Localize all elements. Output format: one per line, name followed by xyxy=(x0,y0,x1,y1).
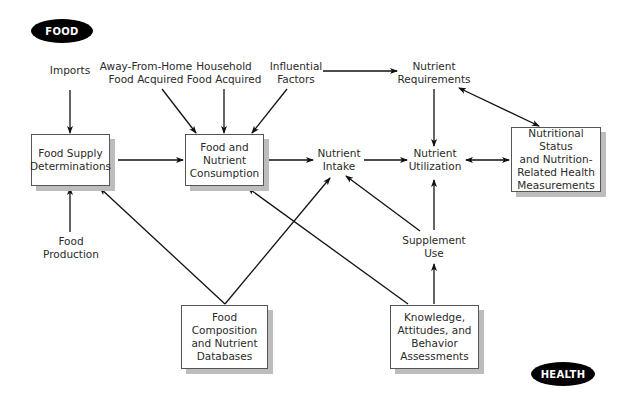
box-label: Food and Nutrient Consumption xyxy=(190,141,260,180)
arrow-requirements-status xyxy=(459,88,539,126)
food-badge: FOOD xyxy=(31,19,93,43)
arrow-influential-to-consumption xyxy=(252,89,287,133)
label-food-production: Food Production xyxy=(36,234,106,262)
arrow-composition-to-supply xyxy=(100,188,225,304)
box-label: Nutritional Status and Nutrition- Relate… xyxy=(512,127,600,192)
arrow-supplement-to-intake xyxy=(346,176,420,231)
health-badge-label: HEALTH xyxy=(541,369,586,380)
label-nutrient-requirements: Nutrient Requirements xyxy=(394,59,474,87)
box-label: Food Supply Determinations xyxy=(30,147,111,173)
label-imports: Imports xyxy=(40,62,100,78)
health-badge: HEALTH xyxy=(531,362,595,386)
arrow-composition-to-intake xyxy=(225,178,330,304)
label-household: Household Food Acquired xyxy=(184,59,264,87)
box-label: Knowledge, Attitudes, and Behavior Asses… xyxy=(398,311,472,363)
box-nutritional-status: Nutritional Status and Nutrition- Relate… xyxy=(511,127,601,192)
box-food-composition-databases: Food Composition and Nutrient Databases xyxy=(181,305,268,369)
label-away-from-home: Away-From-Home Food Acquired xyxy=(96,59,196,87)
arrow-knowledge-to-consumption xyxy=(248,188,408,304)
label-nutrient-utilization: Nutrient Utilization xyxy=(404,146,466,174)
arrow-away-to-consumption xyxy=(162,89,196,133)
box-knowledge-attitudes-behavior: Knowledge, Attitudes, and Behavior Asses… xyxy=(390,305,479,369)
box-label: Food Composition and Nutrient Databases xyxy=(191,311,257,363)
label-supplement-use: Supplement Use xyxy=(400,233,468,261)
food-badge-label: FOOD xyxy=(45,26,78,37)
box-food-supply-determinations: Food Supply Determinations xyxy=(31,134,110,186)
label-nutrient-intake: Nutrient Intake xyxy=(313,146,365,174)
box-food-nutrient-consumption: Food and Nutrient Consumption xyxy=(185,134,264,186)
label-influential-factors: Influential Factors xyxy=(266,59,326,87)
